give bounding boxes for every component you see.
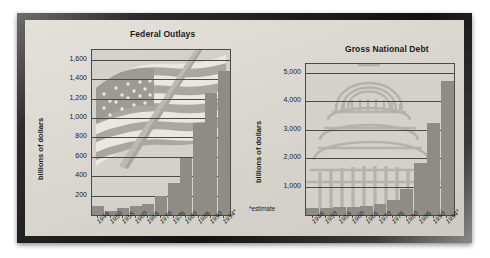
y-axis-tick-label: 600: [55, 152, 87, 159]
y-axis-tick-label: 3,000: [269, 125, 301, 132]
gridline: [92, 79, 230, 80]
bar: [180, 158, 192, 215]
bar: [414, 163, 427, 215]
bevel-frame: Federal Outlays billions of dollars: [17, 13, 472, 243]
chart-title-federal-outlays: Federal Outlays: [130, 29, 195, 39]
figure-root: Federal Outlays billions of dollars: [0, 0, 490, 258]
gridline: [92, 60, 230, 61]
y-axis-label-gross-national-debt: billions of dollars: [254, 121, 263, 183]
bar: [441, 81, 454, 215]
y-axis-tick-label: 5,000: [269, 68, 301, 75]
y-axis-tick-label: 1,000: [269, 182, 301, 189]
y-axis-tick-label: 4,000: [269, 96, 301, 103]
y-axis-tick-label: 1,200: [55, 94, 87, 101]
chart-title-gross-national-debt: Gross National Debt: [345, 44, 429, 54]
y-axis-tick-label: 200: [55, 191, 87, 198]
plot-area-federal-outlays: [91, 49, 231, 216]
y-axis-tick-label: 1,000: [55, 113, 87, 120]
gridline: [306, 73, 454, 74]
y-axis-tick-label: 400: [55, 171, 87, 178]
paper-panel: Federal Outlays billions of dollars: [25, 20, 464, 236]
y-axis-tick-label: 1,400: [55, 74, 87, 81]
plot-area-gross-national-debt: [305, 63, 455, 216]
bar: [218, 71, 230, 215]
bar: [427, 123, 440, 215]
chart-gross-national-debt: Gross National Debt billions of dollars …: [237, 20, 464, 236]
bar: [205, 93, 217, 215]
frame-inner: Federal Outlays billions of dollars: [25, 20, 464, 236]
estimate-footnote: *estimate: [249, 205, 275, 212]
y-axis-label-federal-outlays: billions of dollars: [36, 118, 45, 180]
y-axis-tick-label: 1,600: [55, 55, 87, 62]
bar: [193, 123, 205, 215]
y-axis-tick-label: 800: [55, 132, 87, 139]
chart-federal-outlays: Federal Outlays billions of dollars: [25, 20, 237, 236]
gridline: [306, 101, 454, 102]
y-axis-tick-label: 2,000: [269, 153, 301, 160]
